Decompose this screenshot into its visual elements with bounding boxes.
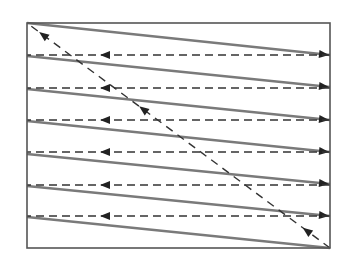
up-left-arrow-icon [303, 228, 313, 237]
left-arrow-icon [100, 51, 110, 59]
raster-scan-diagram [0, 0, 350, 270]
scan-line [27, 154, 330, 184]
left-arrow-icon [100, 84, 110, 92]
left-arrow-icon [100, 212, 110, 220]
scan-line [27, 186, 330, 216]
left-arrow-icon [100, 116, 110, 124]
vertical-retrace-line [27, 23, 330, 248]
scan-line [27, 23, 330, 55]
scan-line [27, 217, 330, 248]
scan-line [27, 121, 330, 152]
up-left-arrow-icon [139, 106, 149, 115]
left-arrow-icon [100, 181, 110, 189]
scan-line [27, 89, 330, 120]
scan-line [27, 56, 330, 87]
vertical-retrace-line [27, 23, 330, 248]
left-arrow-icon [100, 148, 110, 156]
up-left-arrow-icon [39, 32, 49, 41]
